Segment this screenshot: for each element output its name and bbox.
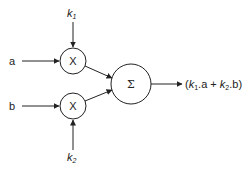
- input-b-label: b: [9, 100, 15, 112]
- arrow-mult2-to-sum: [85, 90, 112, 101]
- weight-k2-label: k2: [67, 151, 77, 164]
- output-expression: (k1.a + k2.b): [185, 78, 242, 91]
- neuron-diagram: k1 a X b X k2 Σ (k1.a + k2.b): [0, 0, 252, 174]
- weight-k1-label: k1: [67, 7, 77, 20]
- arrow-mult1-to-sum: [85, 66, 112, 78]
- sigma-symbol: Σ: [127, 78, 135, 91]
- input-a-label: a: [9, 55, 16, 67]
- multiply-symbol-2: X: [69, 100, 77, 112]
- multiply-symbol-1: X: [69, 55, 77, 67]
